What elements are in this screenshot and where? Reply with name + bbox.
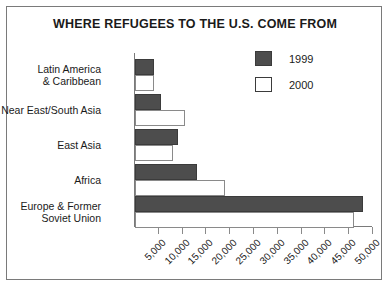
bar-group (135, 94, 185, 126)
bar-1999 (135, 59, 154, 75)
category-label: Near East/South Asia (0, 105, 101, 117)
category-label-line: Latin America (0, 64, 101, 76)
category-label-line: & Caribbean (0, 76, 101, 88)
x-tick (348, 227, 349, 234)
x-tick (324, 227, 325, 234)
category-label-line: East Asia (0, 140, 101, 152)
x-tick (301, 227, 302, 234)
chart-frame: WHERE REFUGEES TO THE U.S. COME FROM 199… (6, 6, 382, 280)
x-tick (182, 227, 183, 234)
bar-group (135, 59, 154, 91)
page-title: WHERE REFUGEES TO THE U.S. COME FROM (7, 17, 383, 31)
category-label-line: Near East/South Asia (0, 105, 101, 117)
bar-1999 (135, 164, 197, 180)
bar-group (135, 164, 225, 196)
bar-2000 (135, 145, 173, 161)
x-tick (205, 227, 206, 234)
x-tick (372, 227, 373, 234)
category-label: Latin America& Caribbean (0, 64, 101, 87)
bar-2000 (135, 180, 225, 196)
category-label: Europe & FormerSoviet Union (0, 201, 101, 224)
bar-2000 (135, 110, 185, 126)
category-label-line: Africa (0, 175, 101, 187)
category-label-line: Europe & Former (0, 201, 101, 213)
x-tick (229, 227, 230, 234)
bar-group (135, 196, 363, 228)
plot-area: Latin America& CaribbeanNear East/South … (134, 53, 373, 227)
category-label: Africa (0, 175, 101, 187)
x-tick (277, 227, 278, 234)
bar-1999 (135, 196, 363, 212)
bar-group (135, 129, 178, 161)
x-tick (253, 227, 254, 234)
x-tick (158, 227, 159, 234)
bar-1999 (135, 94, 161, 110)
category-label-line: Soviet Union (0, 213, 101, 225)
bar-1999 (135, 129, 178, 145)
category-label: East Asia (0, 140, 101, 152)
bar-2000 (135, 75, 154, 91)
bar-2000 (135, 212, 354, 228)
